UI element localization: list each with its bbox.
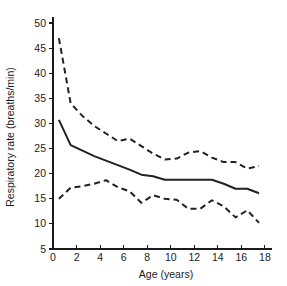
y-tick-label: 45 <box>34 42 46 54</box>
series-line-upper-centile <box>59 38 259 169</box>
y-axis-ticks <box>49 23 53 249</box>
y-tick-label: 50 <box>34 17 46 29</box>
x-tick-label: 4 <box>97 251 103 263</box>
y-tick-label: 5 <box>40 243 46 255</box>
x-tick-label: 10 <box>165 251 177 263</box>
y-axis-tick-labels: 5101520253035404550 <box>34 17 46 255</box>
y-tick-label: 30 <box>34 117 46 129</box>
x-tick-label: 0 <box>50 251 56 263</box>
y-tick-label: 10 <box>34 217 46 229</box>
x-tick-label: 2 <box>74 251 80 263</box>
x-tick-label: 18 <box>259 251 271 263</box>
axes-group <box>49 17 272 249</box>
y-axis-title: Respiratory rate (breaths/min) <box>4 67 16 206</box>
y-tick-label: 20 <box>34 167 46 179</box>
x-axis-tick-labels: 024681012141618 <box>50 251 271 263</box>
x-tick-label: 16 <box>236 251 248 263</box>
series-layer <box>59 38 259 223</box>
y-tick-label: 25 <box>34 142 46 154</box>
x-tick-label: 12 <box>188 251 200 263</box>
x-tick-label: 8 <box>144 251 150 263</box>
chart-canvas: 5101520253035404550 024681012141618 Age … <box>0 0 287 286</box>
x-tick-label: 6 <box>121 251 127 263</box>
y-tick-label: 35 <box>34 92 46 104</box>
x-axis-ticks <box>77 245 265 249</box>
x-tick-label: 14 <box>212 251 224 263</box>
y-tick-label: 40 <box>34 67 46 79</box>
x-axis-title: Age (years) <box>139 268 193 280</box>
y-tick-label: 15 <box>34 192 46 204</box>
respiratory-rate-chart: 5101520253035404550 024681012141618 Age … <box>0 0 287 286</box>
